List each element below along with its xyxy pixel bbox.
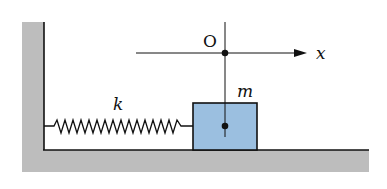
origin-dot: [222, 50, 229, 57]
ground: [22, 150, 369, 172]
spring-mass-diagram: O x k m: [0, 0, 387, 189]
x-axis-arrowhead-icon: [294, 49, 307, 57]
x-axis-label: x: [316, 43, 326, 63]
spring: [44, 120, 193, 133]
wall: [22, 22, 44, 172]
block-center-dot: [222, 123, 229, 130]
mass-label: m: [237, 81, 253, 101]
spring-constant-label: k: [113, 94, 123, 114]
origin-label: O: [203, 31, 217, 51]
